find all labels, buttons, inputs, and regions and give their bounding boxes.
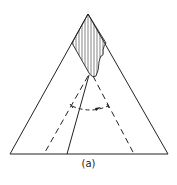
dashed-right-line	[93, 76, 134, 154]
dashed-left-line	[44, 76, 88, 154]
figure-caption: (a)	[0, 158, 177, 169]
solid-internal-line	[67, 75, 89, 154]
hatched-apex-region	[72, 14, 106, 77]
dashed-arc-with-arrow	[70, 104, 109, 111]
